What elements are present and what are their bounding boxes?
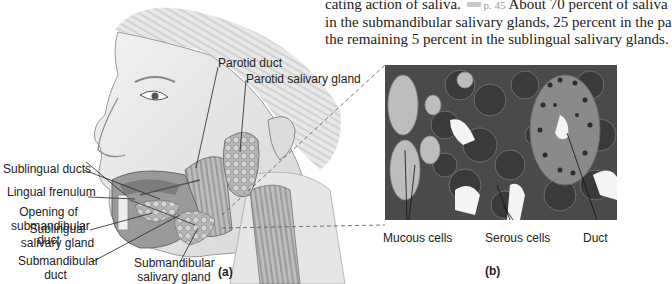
- label-submandibular-salivary-gland: Submandibular salivary gland: [134, 256, 214, 284]
- micrograph-drawing: [385, 65, 617, 220]
- label-duct: Duct: [583, 231, 608, 245]
- label-sublingual-salivary-gland: Sublingual salivary gland: [20, 222, 95, 250]
- label-parotid-salivary-gland: Parotid salivary gland: [246, 72, 361, 86]
- panel-b-letter: (b): [485, 264, 500, 278]
- label-mucous-cells: Mucous cells: [383, 231, 452, 245]
- label-sublingual-ducts: Sublingual ducts: [3, 162, 91, 176]
- panel-a-letter: (a): [218, 265, 233, 279]
- label-parotid-duct: Parotid duct: [218, 56, 282, 70]
- micrograph-image: [385, 65, 617, 220]
- teeth-drawing: [118, 195, 128, 230]
- label-serous-cells: Serous cells: [485, 231, 550, 245]
- label-submandibular-duct: Submandibular duct: [18, 254, 93, 282]
